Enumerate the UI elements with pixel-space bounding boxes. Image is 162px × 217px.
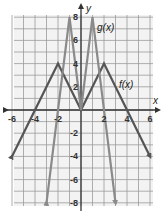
y-axis-label: y bbox=[85, 3, 92, 14]
y-tick-label: -8 bbox=[70, 198, 78, 208]
y-tick-label: 2 bbox=[73, 82, 78, 92]
graph: -6-4-22468642-2-4-6-8 y x g(x) f(x) bbox=[0, 0, 162, 217]
x-tick-label: 6 bbox=[147, 114, 152, 124]
x-tick-label: 4 bbox=[124, 114, 129, 124]
f-label: f(x) bbox=[119, 79, 133, 90]
x-tick-label: 2 bbox=[101, 114, 106, 124]
y-tick-label: 8 bbox=[73, 12, 78, 22]
g-label: g(x) bbox=[97, 22, 114, 33]
y-tick-label: 6 bbox=[73, 35, 78, 45]
x-tick-label: -4 bbox=[31, 114, 39, 124]
y-tick-label: -2 bbox=[70, 128, 78, 138]
x-axis-label: x bbox=[152, 95, 159, 106]
x-tick-label: -2 bbox=[54, 114, 62, 124]
y-tick-label: 4 bbox=[73, 59, 78, 69]
y-tick-label: -6 bbox=[70, 175, 78, 185]
y-tick-label: -4 bbox=[70, 151, 78, 161]
x-tick-label: -6 bbox=[8, 114, 16, 124]
